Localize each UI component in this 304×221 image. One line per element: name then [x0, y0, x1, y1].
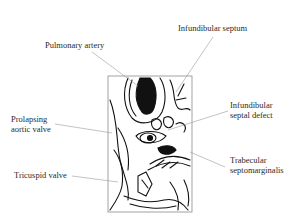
pulmonary-artery-lumen [136, 78, 156, 114]
label-text-line2: septal defect [230, 110, 273, 120]
label-pulmonary-artery: Pulmonary artery [45, 40, 104, 50]
label-text: Pulmonary artery [45, 40, 104, 50]
label-text-line1: Trabecular [230, 155, 284, 165]
leader-infundibular-septum [176, 37, 213, 92]
label-infundibular-septal-defect: Infundibular septal defect [230, 100, 273, 120]
label-text: Infundibular septum [178, 23, 247, 33]
label-text-line2: aortic valve [11, 124, 51, 134]
label-text-line1: Infundibular [230, 100, 273, 110]
label-prolapsing-aortic-valve: Prolapsing aortic valve [11, 114, 51, 134]
label-text-line2: septomarginalis [230, 165, 284, 175]
leader-trabecular-septomarginalis [190, 152, 225, 167]
label-text-line1: Prolapsing [11, 114, 51, 124]
leader-prolapsing-aortic-valve [55, 124, 112, 133]
label-tricuspid-valve: Tricuspid valve [14, 170, 67, 180]
label-text: Tricuspid valve [14, 170, 67, 180]
label-trabecular-septomarginalis: Trabecular septomarginalis [230, 155, 284, 175]
label-infundibular-septum: Infundibular septum [178, 23, 247, 33]
